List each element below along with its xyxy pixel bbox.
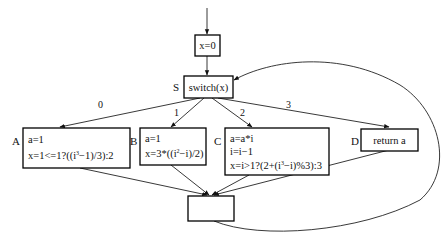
control-flow-graph: 0 1 2 3 x=0 S switch(x) A a=1 x=1<=1?((i… (0, 0, 445, 238)
node-C-line3: x=i>1?(2+(i3−i)%3):3 (230, 160, 322, 172)
edge-label-1: 1 (174, 107, 179, 118)
edge-label-0: 0 (98, 99, 103, 110)
edge-B-to-merge (171, 165, 209, 195)
node-A-label: A (12, 135, 20, 147)
edges (60, 8, 440, 231)
node-switch-label: S (173, 81, 179, 93)
node-B-line2: x=3*((i2−i)/2) (145, 148, 204, 160)
node-merge (188, 196, 234, 221)
edge-label-3: 3 (286, 99, 291, 110)
edge-label-2: 2 (240, 107, 245, 118)
node-C: C a=a*i i=i−1 x=i>1?(2+(i3−i)%3):3 (214, 128, 329, 175)
node-D-label: D (351, 135, 359, 147)
node-D: D return a (351, 129, 418, 151)
node-C-line2: i=i−1 (230, 146, 253, 157)
node-B: B a=1 x=3*((i2−i)/2) (130, 128, 206, 165)
edge-A-to-merge (80, 168, 207, 195)
node-A: A a=1 x=1<=1?((i3−1)/3):2 (12, 128, 130, 168)
node-B-label: B (130, 135, 137, 147)
node-init-text: x=0 (199, 40, 215, 51)
node-init: x=0 (195, 35, 220, 56)
node-A-line2: x=1<=1?((i3−1)/3):2 (28, 150, 114, 162)
edge-labels: 0 1 2 3 (98, 99, 291, 118)
node-D-text: return a (373, 135, 406, 146)
node-A-line1: a=1 (28, 134, 44, 145)
edge-C-to-merge (212, 175, 249, 195)
node-B-line1: a=1 (145, 133, 161, 144)
node-C-label: C (214, 135, 221, 147)
node-switch-text: switch(x) (189, 82, 229, 94)
node-switch: S switch(x) (173, 76, 233, 98)
edge-switch-to-A (60, 98, 200, 127)
node-C-line1: a=a*i (230, 133, 253, 144)
